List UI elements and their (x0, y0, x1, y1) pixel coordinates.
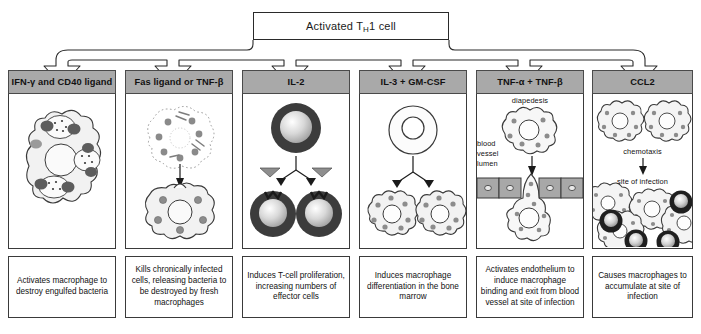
column-caption: Induces macrophage differentiation in th… (359, 256, 467, 318)
column-header: IFN-γ and CD40 ligand (8, 70, 116, 94)
diapedesis-label: diapedesis (477, 96, 583, 105)
column-art-chemotaxis: chemotaxis site of infection (592, 94, 693, 249)
column-caption: Kills chronically infected cells, releas… (125, 256, 233, 318)
column-header: IL-2 (242, 70, 350, 94)
column-ifn-cd40: IFN-γ and CD40 ligand (8, 70, 116, 249)
title-prefix: Activated T (306, 20, 363, 32)
column-tnfa-tnfb: TNF-α + TNF-β (476, 70, 584, 249)
column-header: IL-3 + GM-CSF (359, 70, 467, 94)
column-header: CCL2 (592, 70, 693, 94)
column-il3-gmcsf: IL-3 + GM-CSF (359, 70, 467, 249)
column-il2: IL-2 (242, 70, 350, 249)
column-art-macrophage-differentiation (359, 94, 467, 249)
column-caption: Activates endothelium to induce macropha… (476, 256, 584, 318)
diagram-root: Activated TH1 cell IFN-γ and CD40 ligand (0, 0, 701, 334)
column-caption: Causes macrophages to accumulate at site… (592, 256, 693, 318)
lumen-label: lumen (477, 159, 511, 168)
column-art-macrophage-activation (8, 94, 116, 249)
title-subscript: H (363, 25, 369, 34)
column-art-infected-cell-killing (125, 94, 233, 249)
title-suffix: 1 cell (369, 20, 396, 32)
chemotaxis-label: chemotaxis (593, 147, 692, 156)
column-caption: Activates macrophage to destroy engulfed… (8, 256, 116, 318)
vessel-label: vessel (477, 149, 511, 158)
column-art-tcell-proliferation (242, 94, 350, 249)
column-caption: Induces T-cell proliferation, increasing… (242, 256, 350, 318)
site-of-infection-label: site of infection (593, 177, 692, 186)
column-header: Fas ligand or TNF-β (125, 70, 233, 94)
blood-label: blood (477, 139, 507, 148)
column-header: TNF-α + TNF-β (476, 70, 584, 94)
column-fas-tnfb: Fas ligand or TNF-β (125, 70, 233, 249)
activated-th1-cell-title: Activated TH1 cell (253, 12, 449, 40)
column-ccl2: CCL2 (592, 70, 693, 249)
column-art-diapedesis: diapedesis blood vessel lumen (476, 94, 584, 249)
